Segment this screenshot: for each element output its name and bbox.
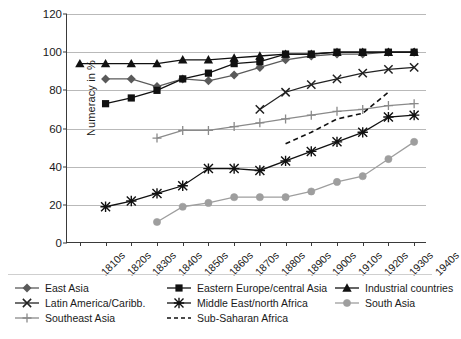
data-point [282,194,289,201]
data-point [409,110,419,120]
legend-label: Eastern Europe/central Asia [197,282,327,294]
data-point [410,99,419,108]
series-line [286,92,389,144]
data-point [255,165,265,175]
data-point [203,163,213,173]
data-point [153,87,160,94]
data-point [280,156,290,166]
legend-item-eastern-europe-central-asia: Eastern Europe/central Asia [166,282,334,294]
data-point [100,202,110,212]
data-point [153,134,162,143]
data-point [229,163,239,173]
data-point [281,114,290,123]
data-point [230,71,239,80]
data-point [308,188,315,195]
plot-area: Numeracy in % 0204060801001201810s1820s1… [66,14,426,243]
data-point [358,105,367,114]
data-point [384,101,393,110]
legend-marker-icon [334,282,360,294]
legend-item-middle-east-north-africa: Middle East/north Africa [166,297,334,309]
data-point [179,75,186,82]
data-point [205,70,212,77]
x-tick-label: 1940s [433,249,461,278]
data-point [231,194,238,201]
data-point [281,88,289,96]
legend-item-sub-saharan-africa: Sub-Saharan Africa [166,312,334,324]
data-point [255,118,264,127]
data-point [127,74,136,83]
data-point [179,203,186,210]
data-point [358,127,368,137]
legend-label: Southeast Asia [45,312,115,324]
series-sub-saharan-africa [286,92,389,144]
data-point [178,126,187,135]
legend-label: Middle East/north Africa [197,297,308,309]
legend-marker-icon [14,312,40,324]
legend-item-east-asia: East Asia [14,282,166,294]
data-point [383,112,393,122]
data-point [126,196,136,206]
data-point [128,94,135,101]
data-point [101,74,110,83]
legend-marker-icon [14,297,40,309]
data-point [332,137,342,147]
data-point [178,181,188,191]
y-tick-label: 0 [56,237,62,249]
legend-marker-icon [166,282,192,294]
y-tick-label: 20 [49,199,62,211]
series-south-asia [153,138,417,225]
data-point [204,76,213,85]
data-point [333,178,340,185]
series-line [157,142,414,222]
data-point [256,194,263,201]
legend-label: Sub-Saharan Africa [197,312,288,324]
series-latin-america-caribb [256,63,419,113]
y-tick-label: 40 [49,161,62,173]
series-line [260,67,414,109]
data-point [411,138,418,145]
legend-label: Latin America/Caribb. [45,297,145,309]
legend-marker-icon [166,297,192,309]
y-tick-label: 80 [49,84,62,96]
data-point [359,173,366,180]
legend-marker-icon [166,312,192,324]
data-point [204,126,213,135]
legend-label: Industrial countries [365,282,453,294]
legend-divider [8,274,432,275]
legend-item-industrial-countries: Industrial countries [334,282,444,294]
y-tick-label: 120 [43,8,62,20]
series-industrial-countries [75,47,419,67]
legend-item-latin-america-caribb: Latin America/Caribb. [14,297,166,309]
legend-marker-icon [334,297,360,309]
chart-plot-svg [67,14,427,243]
legend-item-southeast-asia: Southeast Asia [14,312,166,324]
chart-legend: East AsiaEastern Europe/central AsiaIndu… [14,282,434,324]
data-point [307,111,316,120]
legend-item-south-asia: South Asia [334,297,444,309]
data-point [205,199,212,206]
data-point [102,100,109,107]
data-point [256,105,264,113]
legend-label: South Asia [365,297,415,309]
data-point [333,107,342,116]
data-point [152,188,162,198]
legend-marker-icon [14,282,40,294]
y-tick-label: 60 [49,123,62,135]
y-tick-label: 100 [43,46,62,58]
series-southeast-asia [153,99,419,142]
data-point [385,155,392,162]
data-point [153,218,160,225]
data-point [230,122,239,131]
legend-label: East Asia [45,282,89,294]
data-point [306,146,316,156]
